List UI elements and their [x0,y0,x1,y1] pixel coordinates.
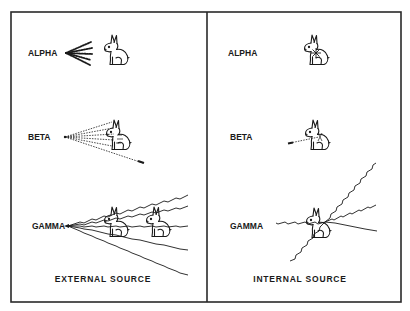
beta-internal-ray-icon [290,137,319,143]
row-internal-gamma: GAMMA [230,163,377,261]
caption-internal-source: INTERNAL SOURCE [253,274,347,284]
label-alpha: ALPHA [228,48,257,58]
label-gamma: GAMMA [230,221,263,231]
rabbit-icon [105,35,130,65]
rabbit-icon [306,120,331,150]
alpha-particles-icon [66,42,92,65]
row-external-alpha: ALPHA [28,35,129,65]
label-beta: BETA [28,132,51,142]
rabbit-icon [305,35,330,65]
label-gamma: GAMMA [32,221,65,231]
rabbit-icon [147,207,172,237]
row-internal-alpha: ALPHA [228,35,329,65]
radiation-penetration-diagram: ALPHA BETA [0,0,410,311]
label-beta: BETA [230,132,253,142]
rabbit-icon [307,208,332,238]
beta-penetrating-ray [138,161,144,163]
gamma-internal-rays-icon [276,163,377,261]
panel-external-source: ALPHA BETA [28,35,188,284]
gamma-rays-icon [68,195,188,275]
alpha-internal-burst-icon [311,48,321,58]
panel-internal-source: ALPHA BETA GAMMA [228,35,377,284]
row-internal-beta: BETA [230,120,330,150]
caption-external-source: EXTERNAL SOURCE [55,274,151,284]
row-external-gamma: GAMMA [32,195,188,275]
label-alpha: ALPHA [28,48,57,58]
row-external-beta: BETA [28,120,144,163]
